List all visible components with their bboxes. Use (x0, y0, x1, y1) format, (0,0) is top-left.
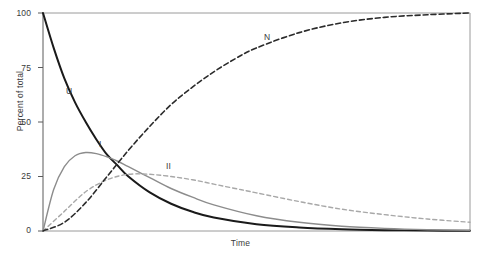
y-tick-label-25: 25 (5, 171, 31, 181)
y-tick-label-0: 0 (5, 225, 31, 235)
curve-n (43, 13, 470, 231)
x-axis-label: Time (0, 238, 481, 248)
curve-label-i: I (99, 139, 102, 149)
curve-u (43, 13, 470, 231)
y-tick-label-50: 50 (5, 117, 31, 127)
curve-ii (43, 174, 470, 231)
data-curves (43, 13, 470, 231)
plot-area (0, 0, 481, 253)
chart-figure: Percent of total Time 100 75 50 25 0 U I… (0, 0, 481, 253)
curve-label-ii: II (166, 161, 171, 171)
curve-label-n: N (264, 32, 270, 42)
curve-label-u: U (66, 86, 72, 96)
plot-frame (43, 13, 470, 231)
y-tick-label-75: 75 (5, 63, 31, 73)
axis-ticks (38, 13, 43, 231)
y-tick-label-100: 100 (5, 8, 31, 18)
curve-i (43, 152, 470, 231)
